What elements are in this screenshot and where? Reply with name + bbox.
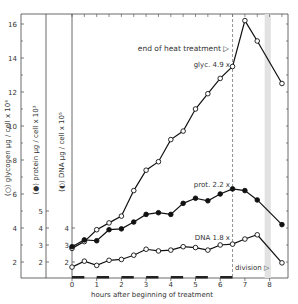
glycogen-tick: 4 <box>13 225 18 233</box>
heat-pulse-bar <box>220 276 232 279</box>
shaded-division-band <box>265 14 271 278</box>
x-tick: 5 <box>193 281 197 289</box>
protein-point <box>255 198 260 203</box>
dna-tick: 3 <box>65 242 69 250</box>
glycogen-point <box>94 227 99 232</box>
x-tick: 1 <box>94 281 98 289</box>
protein-axis-label: (●) protein µg / cell x 10³ <box>32 105 40 194</box>
DNA-line <box>72 235 282 267</box>
protein-line <box>72 189 282 247</box>
dna-axis-label: (◐) DNA µg / cell x 10⁵ <box>58 112 66 192</box>
DNA-point <box>119 257 124 262</box>
glycogen-point <box>243 18 248 23</box>
DNA-point <box>181 244 186 249</box>
glycogen-point <box>169 137 174 142</box>
DNA-point <box>218 243 223 248</box>
DNA-point <box>255 233 260 238</box>
data-series <box>70 18 285 269</box>
DNA-point <box>131 253 136 258</box>
x-tick: 3 <box>144 281 148 289</box>
heat-pulse-bar <box>146 276 158 279</box>
glycogen-point <box>156 159 161 164</box>
protein-tick: 4 <box>39 225 44 233</box>
protein-point <box>156 210 161 215</box>
protein-point <box>193 196 198 201</box>
glycogen-tick: 16 <box>8 21 17 29</box>
annotations: end of heat treatment ▷ glyc. 4.9 x prot… <box>4 44 270 299</box>
DNA-point <box>107 258 112 263</box>
glycogen-point <box>255 39 260 44</box>
protein-tick: 2 <box>39 259 43 267</box>
protein-tick: 3 <box>39 242 43 250</box>
x-tick: 8 <box>267 281 271 289</box>
glycogen-axis-label: (○) glycogen µg / cell x 10⁴ <box>4 100 12 196</box>
glycogen-point <box>218 76 223 81</box>
dna-annotation: DNA 1.8 x <box>195 234 230 242</box>
chart: 2468101214162345234012345678 end of heat… <box>0 0 298 304</box>
x-tick: 6 <box>218 281 223 289</box>
protein-point <box>131 220 136 225</box>
protein-point <box>169 212 174 217</box>
x-tick: 4 <box>169 281 174 289</box>
protein-point <box>94 238 99 243</box>
glycogen-point <box>280 81 285 86</box>
x-tick: 2 <box>119 281 123 289</box>
DNA-point <box>193 245 198 250</box>
glycogen-tick: 14 <box>8 55 17 63</box>
dna-tick: 2 <box>65 259 69 267</box>
protein-point <box>107 227 112 232</box>
protein-point <box>218 192 223 197</box>
end-heat-annotation: end of heat treatment ▷ <box>138 44 229 53</box>
protein-annotation: prot. 2.2 x <box>194 181 230 189</box>
heat-pulse-bar <box>121 276 133 279</box>
glycogen-point <box>181 129 186 134</box>
glycogen-point <box>206 91 211 96</box>
x-tick: 0 <box>70 281 74 289</box>
glycogen-point <box>107 221 112 226</box>
DNA-point <box>94 263 99 268</box>
protein-point <box>181 201 186 206</box>
protein-tick: 5 <box>39 208 43 216</box>
heat-pulse-bar <box>196 276 208 279</box>
protein-point <box>119 227 124 232</box>
x-axis-label: hours after beginning of treatment <box>91 291 213 299</box>
heat-pulse-bar <box>72 276 84 279</box>
dna-tick: 4 <box>65 225 70 233</box>
glycogen-tick: 6 <box>13 191 18 199</box>
heat-pulse-bar <box>97 276 109 279</box>
DNA-point <box>70 265 75 270</box>
DNA-point <box>82 259 87 264</box>
protein-point <box>280 222 285 227</box>
protein-point <box>70 244 75 249</box>
DNA-point <box>144 247 149 252</box>
x-tick: 7 <box>243 281 247 289</box>
DNA-point <box>169 248 174 253</box>
DNA-point <box>280 261 285 266</box>
heat-pulse-bar <box>171 276 183 279</box>
protein-point <box>230 187 235 192</box>
glycogen-point <box>119 214 124 219</box>
DNA-point <box>206 248 211 253</box>
protein-point <box>243 188 248 193</box>
glycogen-tick: 8 <box>13 157 17 165</box>
glycogen-tick: 12 <box>8 89 17 97</box>
division-band <box>265 14 271 278</box>
protein-point <box>206 199 211 204</box>
glycogen-tick: 2 <box>13 259 17 267</box>
protein-point <box>82 238 87 243</box>
glycogen-point <box>230 64 235 69</box>
protein-point <box>144 212 149 217</box>
DNA-point <box>156 249 161 254</box>
glycogen-point <box>193 107 198 112</box>
DNA-point <box>243 237 248 242</box>
DNA-point <box>230 242 235 247</box>
glycogen-annotation: glyc. 4.9 x <box>194 61 230 69</box>
glycogen-point <box>131 188 136 193</box>
glycogen-point <box>144 168 149 173</box>
division-annotation: division ▷ <box>235 264 270 272</box>
glycogen-line <box>72 21 282 249</box>
